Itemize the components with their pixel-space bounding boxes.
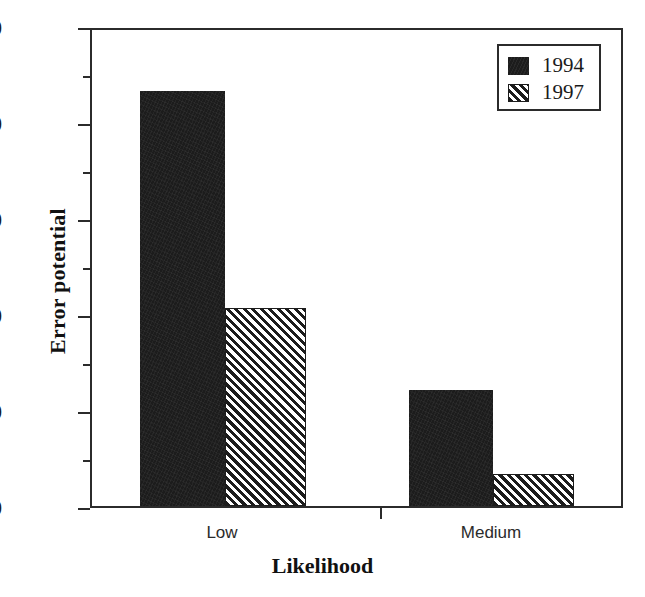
bar-medium-1994 xyxy=(409,390,493,506)
legend: 1994 1997 xyxy=(497,44,601,111)
y-tick-40 xyxy=(78,316,90,318)
y-tick-label-40: 40 xyxy=(0,306,2,327)
y-tick-60 xyxy=(78,220,90,222)
y-tick-minor-10 xyxy=(83,460,90,462)
x-tick-label-low: Low xyxy=(206,524,237,541)
bar-low-1997 xyxy=(225,308,306,506)
y-tick-80 xyxy=(78,124,90,126)
y-tick-minor-70 xyxy=(83,172,90,174)
y-axis-ticks: 100 80 60 40 20 0 xyxy=(0,0,90,597)
legend-label-1997: 1997 xyxy=(542,82,584,103)
x-tick-group-separator xyxy=(380,508,382,519)
legend-label-1994: 1994 xyxy=(542,55,584,76)
y-tick-label-0: 0 xyxy=(0,498,2,519)
y-tick-label-60: 60 xyxy=(0,210,2,231)
legend-item-1997: 1997 xyxy=(499,79,599,106)
x-tick-label-medium: Medium xyxy=(461,524,521,541)
legend-swatch-solid-icon xyxy=(508,57,529,75)
y-tick-20 xyxy=(78,412,90,414)
y-tick-minor-50 xyxy=(83,268,90,270)
y-tick-minor-30 xyxy=(83,364,90,366)
bar-chart-figure: Error potential 100 80 60 40 20 0 Low Me… xyxy=(0,0,645,597)
y-tick-minor-90 xyxy=(83,76,90,78)
bar-low-1994 xyxy=(140,91,225,506)
legend-swatch-hatch-icon xyxy=(508,84,529,102)
x-axis-title: Likelihood xyxy=(0,553,645,579)
bar-medium-1997 xyxy=(493,474,574,506)
legend-item-1994: 1994 xyxy=(499,52,599,79)
y-tick-100 xyxy=(78,28,90,30)
y-tick-0 xyxy=(78,508,90,510)
y-tick-label-80: 80 xyxy=(0,114,2,135)
y-tick-label-20: 20 xyxy=(0,402,2,423)
y-tick-label-100: 100 xyxy=(0,18,2,39)
